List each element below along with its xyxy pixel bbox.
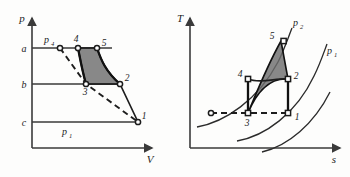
pv-point-4-label: 4 — [74, 34, 79, 44]
pv-point-4 — [75, 45, 80, 50]
ts-point-5-label: 5 — [270, 31, 275, 41]
pv-point-5 — [94, 45, 99, 50]
pv-isobar-p1-base: p — [61, 126, 67, 137]
pv-x-axis-label: V — [147, 153, 155, 165]
ts-shaded-region — [248, 41, 288, 113]
ts-point-3-label: 3 — [244, 118, 250, 128]
ts-y-axis-label: T — [177, 12, 184, 24]
ts-point-4-label: 4 — [238, 69, 243, 79]
ts-x-axis-label: s — [332, 153, 336, 165]
pv-process-2-1 — [120, 84, 138, 122]
figure-root: p V a b c p 4 p 1 — [0, 0, 350, 177]
pv-point-1-label: 1 — [142, 111, 147, 121]
ts-isobar-p1-sub: 1 — [334, 51, 337, 58]
pv-isobar-p4-base: p — [43, 34, 49, 45]
ts-point-5 — [281, 38, 286, 43]
ts-isobar-p1-base: p — [326, 45, 332, 56]
pv-level-label-b: b — [22, 79, 27, 90]
ts-isobar-p2-sub: 2 — [300, 23, 304, 30]
pv-point-5-label: 5 — [102, 38, 107, 48]
pv-isobar-label-p1: p 1 — [61, 126, 72, 139]
ts-isobar-label-p1: p 1 — [326, 45, 337, 58]
ts-isobar-p1-curve-right — [262, 92, 330, 152]
pv-point-3-label: 3 — [82, 87, 88, 97]
pv-point-unlabeled — [57, 45, 62, 50]
ts-point-3 — [245, 110, 250, 115]
pv-point-1 — [135, 119, 140, 124]
ts-diagram: T s p 2 p 1 — [177, 12, 340, 165]
pv-level-label-a: a — [22, 43, 27, 54]
ts-isobar-p2-base: p — [292, 17, 298, 28]
ts-point-unlabeled — [208, 110, 213, 115]
thermodynamic-figure: p V a b c p 4 p 1 — [0, 0, 350, 177]
ts-point-1-label: 1 — [295, 112, 300, 122]
pv-point-2 — [117, 81, 122, 86]
ts-point-2-label: 2 — [294, 71, 299, 81]
ts-point-1 — [285, 110, 290, 115]
pv-isobar-p1-sub: 1 — [69, 132, 72, 139]
pv-level-label-c: c — [22, 117, 27, 128]
ts-point-4 — [245, 76, 250, 81]
pv-isobar-label-p4: p 4 — [43, 34, 55, 47]
pv-diagram: p V a b c p 4 p 1 — [18, 12, 154, 165]
ts-point-2 — [285, 76, 290, 81]
pv-point-3 — [83, 81, 88, 86]
ts-isobar-label-p2: p 2 — [292, 17, 304, 30]
pv-point-2-label: 2 — [125, 73, 130, 83]
pv-isobar-p4-sub: 4 — [51, 40, 55, 47]
pv-y-axis-label: p — [18, 12, 25, 24]
